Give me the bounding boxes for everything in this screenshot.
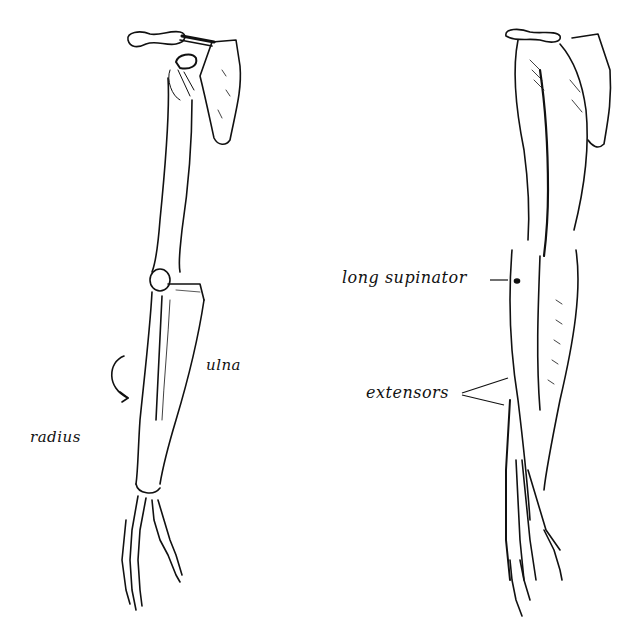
humerus	[152, 78, 169, 272]
ulna	[160, 300, 204, 484]
extensors-leader-upper	[462, 378, 508, 393]
skeleton-arm-illustration	[0, 0, 642, 639]
scapula	[200, 40, 240, 144]
hand-bones	[130, 496, 138, 610]
label-long-supinator: long supinator	[342, 268, 467, 287]
clavicle	[128, 32, 185, 47]
label-ulna: ulna	[206, 356, 241, 374]
label-radius: radius	[30, 428, 81, 446]
radius	[136, 292, 152, 484]
extensors-leader-lower	[462, 395, 504, 405]
anatomy-diagram: ulna radius long supinator extensors	[0, 0, 642, 639]
muscle-arm-illustration	[506, 29, 611, 616]
long-supinator-muscle	[510, 250, 530, 520]
label-extensors: extensors	[366, 383, 449, 402]
